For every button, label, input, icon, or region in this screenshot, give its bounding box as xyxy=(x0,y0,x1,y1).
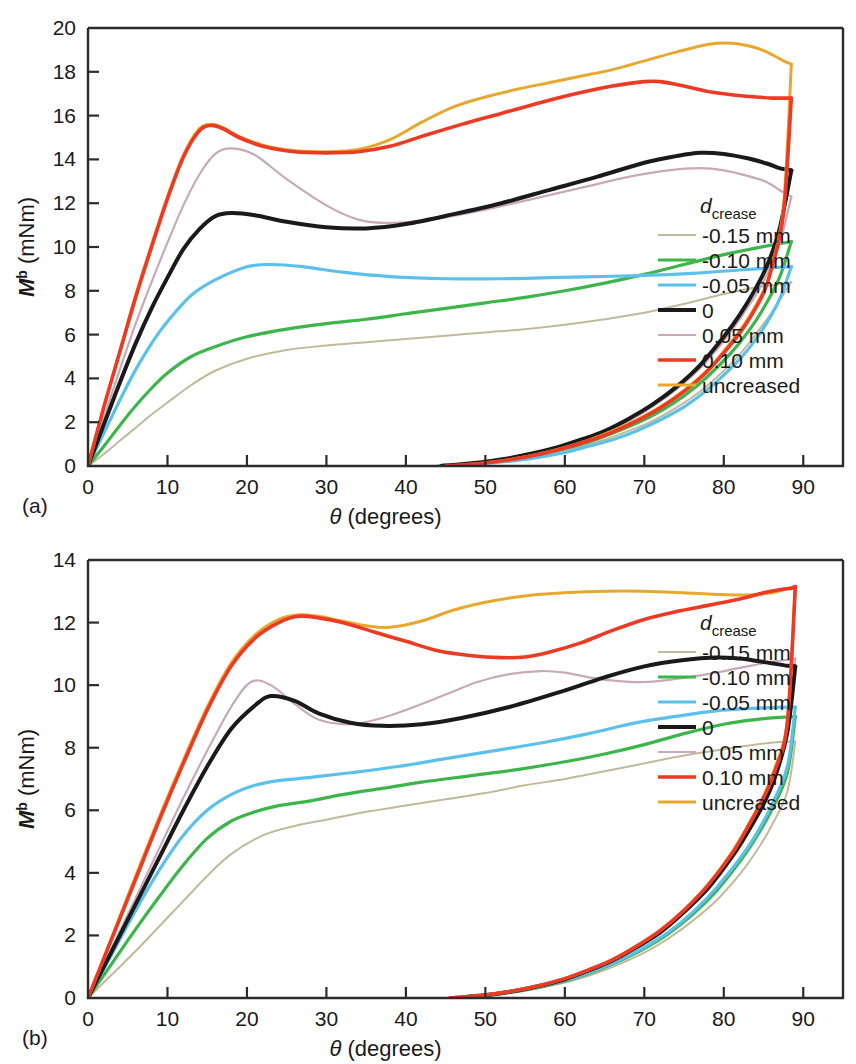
y-tick-label: 10 xyxy=(53,673,76,696)
y-tick-label: 12 xyxy=(53,191,76,214)
figure-root: 024681012141618200102030405060708090θ (d… xyxy=(0,0,856,1064)
y-tick-label: 4 xyxy=(64,861,76,884)
curve-0.05-mm-loading xyxy=(88,659,795,998)
legend-label: 0.10 mm xyxy=(702,349,784,372)
curve-layer xyxy=(88,587,795,998)
x-tick-label: 70 xyxy=(633,475,656,498)
x-tick-label: 80 xyxy=(712,475,735,498)
panel-a-plot: 024681012141618200102030405060708090θ (d… xyxy=(0,0,856,532)
panel-b-tag: (b) xyxy=(22,1026,48,1050)
legend-label: -0.10 mm xyxy=(702,666,791,689)
y-tick-label: 20 xyxy=(53,16,76,39)
x-tick-label: 50 xyxy=(474,475,497,498)
legend-label: -0.15 mm xyxy=(702,224,791,247)
x-tick-label: 0 xyxy=(82,1007,94,1030)
x-tick-label: 50 xyxy=(474,1007,497,1030)
x-axis: 0102030405060708090 xyxy=(82,455,815,498)
x-tick-label: 20 xyxy=(235,475,258,498)
legend-label: uncreased xyxy=(702,374,800,397)
x-tick-label: 60 xyxy=(553,475,576,498)
x-tick-label: 0 xyxy=(82,475,94,498)
curve-layer xyxy=(88,43,791,466)
panel-a-tag: (a) xyxy=(22,494,48,518)
x-tick-label: 80 xyxy=(712,1007,735,1030)
y-tick-label: 6 xyxy=(64,323,76,346)
y-tick-label: 6 xyxy=(64,798,76,821)
panel-b-plot: 024681012140102030405060708090θ (degrees… xyxy=(0,532,856,1064)
x-axis-title: θ (degrees) xyxy=(329,1036,441,1061)
y-tick-label: 10 xyxy=(53,235,76,258)
legend-label: uncreased xyxy=(702,791,800,814)
panel-a: 024681012141618200102030405060708090θ (d… xyxy=(0,0,856,532)
x-tick-label: 40 xyxy=(394,1007,417,1030)
legend-title: dcrease xyxy=(700,194,757,222)
y-tick-label: 4 xyxy=(64,366,76,389)
y-tick-label: 8 xyxy=(64,736,76,759)
legend-label: 0.10 mm xyxy=(702,766,784,789)
legend-label: -0.10 mm xyxy=(702,249,791,272)
x-tick-label: 70 xyxy=(633,1007,656,1030)
y-axis-title: Mb (mNm) xyxy=(14,197,39,297)
y-axis: 02468101214 xyxy=(53,548,99,1009)
curve--0.05-mm-loading xyxy=(88,265,791,466)
x-axis-title: θ (degrees) xyxy=(329,504,441,529)
y-tick-label: 12 xyxy=(53,611,76,634)
x-tick-label: 40 xyxy=(394,475,417,498)
x-tick-label: 90 xyxy=(792,475,815,498)
legend: dcrease-0.15 mm-0.10 mm-0.05 mm00.05 mm0… xyxy=(658,194,800,397)
legend-label: 0 xyxy=(702,716,714,739)
y-tick-label: 18 xyxy=(53,60,76,83)
legend: dcrease-0.15 mm-0.10 mm-0.05 mm00.05 mm0… xyxy=(658,611,800,814)
legend-label: 0 xyxy=(702,299,714,322)
x-tick-label: 30 xyxy=(315,475,338,498)
y-tick-label: 2 xyxy=(64,410,76,433)
x-tick-label: 10 xyxy=(156,475,179,498)
x-tick-label: 10 xyxy=(156,1007,179,1030)
y-tick-label: 0 xyxy=(64,986,76,1009)
y-tick-label: 8 xyxy=(64,279,76,302)
x-axis: 0102030405060708090 xyxy=(82,987,815,1030)
legend-label: -0.15 mm xyxy=(702,641,791,664)
legend-title: dcrease xyxy=(700,611,757,639)
legend-label: 0.05 mm xyxy=(702,324,784,347)
y-axis: 02468101214161820 xyxy=(53,16,99,477)
y-axis-title: Mb (mNm) xyxy=(14,729,39,829)
x-tick-label: 30 xyxy=(315,1007,338,1030)
legend-label: 0.05 mm xyxy=(702,741,784,764)
legend-label: -0.05 mm xyxy=(702,274,791,297)
x-tick-label: 90 xyxy=(792,1007,815,1030)
y-tick-label: 2 xyxy=(64,923,76,946)
y-tick-label: 14 xyxy=(53,548,77,571)
y-tick-label: 16 xyxy=(53,104,76,127)
x-tick-label: 60 xyxy=(553,1007,576,1030)
y-tick-label: 0 xyxy=(64,454,76,477)
curve-0.05-mm-loading xyxy=(88,148,791,466)
panel-b: 024681012140102030405060708090θ (degrees… xyxy=(0,532,856,1064)
x-tick-label: 20 xyxy=(235,1007,258,1030)
legend-label: -0.05 mm xyxy=(702,691,791,714)
y-tick-label: 14 xyxy=(53,147,77,170)
curve-0-loading xyxy=(88,658,795,998)
